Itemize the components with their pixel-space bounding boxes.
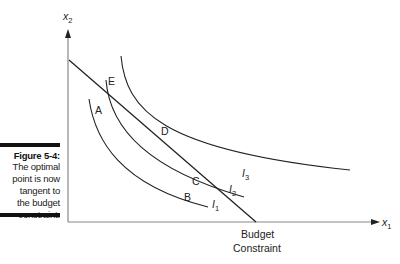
diagram: x2 x1 E A D C B I1 I2 I3 Budget Constrai… xyxy=(0,0,400,264)
budget-label-line2: Constraint xyxy=(233,242,281,254)
indifference-curve-i2 xyxy=(106,80,244,197)
point-label-a: A xyxy=(95,104,102,116)
y-axis-label: x2 xyxy=(62,10,72,25)
curve-label-i1: I1 xyxy=(212,198,219,213)
indifference-curve-i3 xyxy=(121,56,350,170)
point-label-e: E xyxy=(108,75,115,87)
point-label-d: D xyxy=(161,125,169,137)
curve-label-i3: I3 xyxy=(242,167,249,182)
budget-label-line1: Budget xyxy=(241,228,274,240)
point-label-c: C xyxy=(192,175,200,187)
y-axis-arrow-icon xyxy=(65,29,71,38)
point-label-b: B xyxy=(184,191,191,203)
x-axis-label: x1 xyxy=(381,216,391,231)
budget-constraint-line xyxy=(69,60,256,222)
x-axis-arrow-icon xyxy=(371,219,380,225)
curve-label-i2: I2 xyxy=(229,183,236,198)
